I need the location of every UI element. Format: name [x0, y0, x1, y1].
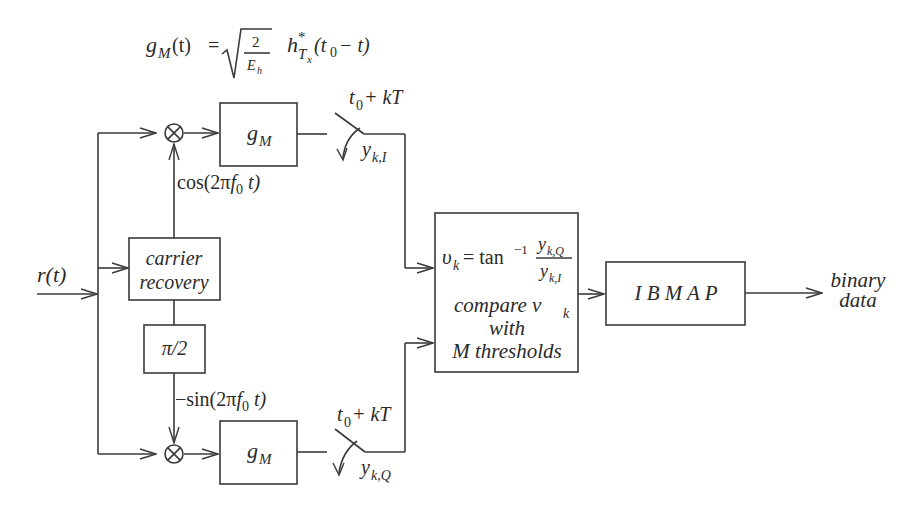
bottom-filter-sub: M	[258, 451, 273, 467]
formula-h-arg: (t	[314, 34, 327, 57]
top-multiplier-icon	[165, 124, 183, 142]
bottom-sampler-out: y	[359, 456, 370, 479]
formula-g-sub: M	[157, 45, 172, 61]
top-sampler-out: y	[360, 138, 371, 161]
matched-filter-formula: g M (t) = 2 E h h * T x (t 0 − t)	[146, 29, 370, 78]
compare-frac-num: y	[536, 234, 546, 254]
compare-line2-sub: k	[563, 306, 570, 321]
top-sampler-time-rest: + kT	[364, 86, 404, 108]
formula-h: h	[287, 32, 298, 57]
compare-line3: with	[489, 316, 525, 340]
formula-h-subsub: x	[306, 53, 312, 65]
formula-equals: =	[208, 34, 219, 56]
ibmap-label: I B M A P	[633, 281, 717, 305]
bottom-filter-label: g	[247, 438, 258, 463]
top-filter-label: g	[247, 120, 258, 145]
top-sampler-t: t	[349, 86, 355, 108]
compare-eq-lhs-sub: k	[453, 258, 460, 273]
sqrt-numerator: 2	[252, 34, 260, 50]
top-sampler-t-sub: 0	[356, 98, 363, 113]
formula-g-arg: (t)	[172, 34, 191, 57]
carrier-recovery-line1: carrier	[146, 247, 203, 269]
cos-prefix: cos(2π	[177, 171, 230, 194]
compare-line4: M thresholds	[451, 339, 561, 363]
formula-g: g	[146, 32, 157, 57]
compare-eq-lhs: υ	[442, 245, 452, 269]
top-filter-sub: M	[258, 133, 273, 149]
sin-f-sub: 0	[242, 399, 249, 414]
compare-frac-den: y	[538, 261, 548, 281]
sin-label: −sin(2πf0 t)	[175, 388, 267, 414]
compare-frac-den-sub: k,I	[549, 271, 562, 285]
sin-suffix: t)	[249, 388, 267, 411]
bottom-sampler-time-rest: + kT	[352, 403, 392, 425]
carrier-recovery-line2: recovery	[139, 271, 208, 294]
top-sampler-out-sub: k,I	[372, 150, 388, 165]
bottom-sampler-t-sub: 0	[344, 415, 351, 430]
sin-prefix: −sin(2π	[175, 388, 236, 411]
top-sampler-arrow-icon	[337, 148, 347, 160]
compare-eq-sup: −1	[514, 242, 528, 257]
input-label: r(t)	[37, 262, 66, 287]
formula-h-sup: *	[298, 29, 306, 45]
phase-shift-label: π/2	[162, 337, 188, 359]
output-line2: data	[839, 288, 876, 312]
receiver-block-diagram: g M (t) = 2 E h h * T x (t 0 − t) r(t) g…	[0, 0, 919, 510]
cos-f-sub: 0	[236, 182, 243, 197]
bottom-sampler-out-sub: k,Q	[371, 468, 391, 483]
bottom-sampler-arrow-icon	[333, 463, 344, 475]
formula-h-arg-sub: 0	[330, 45, 337, 60]
compare-line2: compare v	[454, 293, 542, 317]
bottom-sampler-t: t	[337, 403, 343, 425]
compare-eq-mid: = tan	[463, 246, 504, 268]
sqrt-denominator-sub: h	[257, 65, 262, 76]
compare-frac-num-sub: k,Q	[547, 244, 564, 258]
cos-suffix: t)	[243, 171, 261, 194]
formula-h-arg-close: − t)	[339, 34, 370, 57]
cos-label: cos(2πf0 t)	[177, 171, 261, 197]
top-sampler-switch	[335, 113, 364, 134]
sqrt-denominator: E	[246, 58, 256, 73]
bottom-multiplier-icon	[165, 445, 183, 463]
